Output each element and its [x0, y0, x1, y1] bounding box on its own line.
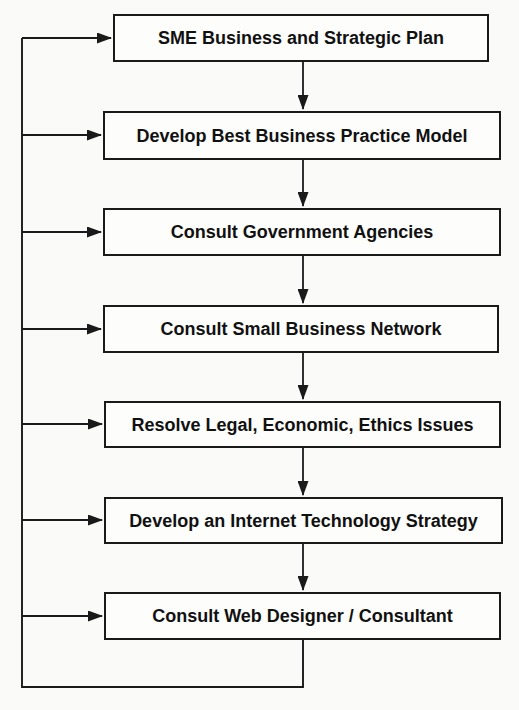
flowchart: SME Business and Strategic Plan Develop …	[0, 0, 519, 710]
flow-box-label: Consult Small Business Network	[160, 320, 441, 338]
flow-box-consult-government-agencies: Consult Government Agencies	[103, 208, 501, 256]
flow-box-label: Develop an Internet Technology Strategy	[129, 512, 478, 530]
flow-box-label: Develop Best Business Practice Model	[136, 127, 467, 145]
flow-box-consult-web-designer: Consult Web Designer / Consultant	[104, 592, 501, 640]
flow-box-best-business-practice-model: Develop Best Business Practice Model	[103, 111, 501, 160]
flow-box-resolve-legal-economic-ethics: Resolve Legal, Economic, Ethics Issues	[104, 401, 501, 448]
flow-box-sme-business-plan: SME Business and Strategic Plan	[113, 14, 489, 62]
flow-box-label: Resolve Legal, Economic, Ethics Issues	[131, 416, 473, 434]
flow-box-label: Consult Government Agencies	[171, 223, 433, 241]
flow-box-label: Consult Web Designer / Consultant	[152, 607, 453, 625]
flow-box-label: SME Business and Strategic Plan	[158, 29, 444, 47]
flow-box-consult-small-business-network: Consult Small Business Network	[103, 305, 499, 353]
flow-box-internet-technology-strategy: Develop an Internet Technology Strategy	[104, 497, 503, 544]
